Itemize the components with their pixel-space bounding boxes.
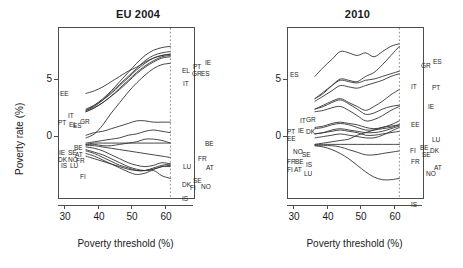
x-tick-mark-30-right bbox=[293, 205, 294, 209]
curve-se bbox=[86, 147, 170, 167]
curve-label-se: SE bbox=[302, 151, 311, 158]
curve-label-fi: FI bbox=[80, 173, 86, 180]
y-tick-label-0-right: 0 bbox=[265, 130, 281, 141]
curve-label-dk: DK bbox=[306, 128, 315, 135]
x-tick-label-30-left: 30 bbox=[54, 211, 76, 222]
plot-frame-left bbox=[58, 27, 195, 199]
curve-label-it: IT bbox=[411, 83, 417, 90]
x-tick-mark-50-left bbox=[131, 205, 132, 209]
x-tick-label-50-right: 50 bbox=[350, 211, 372, 222]
curve-label-es: ES bbox=[201, 70, 210, 77]
x-tick-label-40-left: 40 bbox=[88, 211, 110, 222]
curve-label-it: IT bbox=[183, 80, 189, 87]
curve-it bbox=[86, 63, 170, 138]
curve-label-fi: FI bbox=[410, 147, 416, 154]
x-tick-label-60-left: 60 bbox=[155, 211, 177, 222]
curve-label-no: NO bbox=[426, 170, 436, 177]
panel-title-left: EU 2004 bbox=[0, 8, 254, 20]
curve-is2 bbox=[315, 146, 399, 180]
curve-label-be: BE bbox=[420, 144, 429, 151]
curve-ie bbox=[86, 46, 170, 110]
curve-label-lu: LU bbox=[183, 163, 191, 170]
x-axis-right bbox=[287, 205, 422, 206]
curve-pt bbox=[315, 74, 399, 101]
figure-root: EU 2004 Poverty rate (%) 5 0 EEITPTELESG… bbox=[0, 0, 463, 268]
curve-fr bbox=[315, 130, 399, 135]
curve-label-lu: LU bbox=[304, 170, 312, 177]
curve-label-fr: FR bbox=[411, 158, 420, 165]
x-tick-label-40-right: 40 bbox=[317, 211, 339, 222]
curve-label-no: NO bbox=[201, 183, 211, 190]
x-tick-mark-60-left bbox=[165, 205, 166, 209]
curve-label-gr: GR bbox=[80, 118, 90, 125]
x-tick-label-50-left: 50 bbox=[121, 211, 143, 222]
curve-label-ie: IE bbox=[205, 59, 211, 66]
y-axis-label-left: Poverty rate (%) bbox=[14, 103, 25, 175]
curve-is bbox=[86, 154, 170, 179]
curve-label-gr: GR bbox=[306, 116, 316, 123]
curve-label-ie: IE bbox=[59, 149, 65, 156]
curve-label-at: AT bbox=[294, 166, 302, 173]
x-tick-mark-40-left bbox=[98, 205, 99, 209]
curve-label-dk: DK bbox=[430, 147, 439, 154]
curve-label-is: IS bbox=[61, 162, 67, 169]
curve-label-ie: IE bbox=[428, 103, 434, 110]
curve-lu bbox=[315, 146, 399, 156]
x-axis-left bbox=[58, 205, 193, 206]
curve-label-lu: LU bbox=[432, 136, 440, 143]
curve-label-fi: FI bbox=[190, 184, 196, 191]
curve-label-el: EL bbox=[182, 67, 190, 74]
curve-label-it: IT bbox=[300, 117, 306, 124]
y-tick-label-5-left: 5 bbox=[36, 73, 52, 84]
curve-label-ee: EE bbox=[287, 135, 296, 142]
curve-label-pt: PT bbox=[193, 63, 201, 70]
x-axis-label-right: Poverty threshold (%) bbox=[287, 238, 422, 249]
panel-2010: 2010 5 0 ESITGRPTEEIEDKNOSEFRBEISFIATLUE… bbox=[232, 0, 463, 268]
curve-label-is: IS bbox=[182, 195, 188, 202]
curve-gr bbox=[315, 46, 399, 98]
y-tick-label-0-left: 0 bbox=[36, 130, 52, 141]
curve-label-be: BE bbox=[295, 158, 304, 165]
curve-at bbox=[86, 139, 170, 146]
curve-label-lu: LU bbox=[70, 162, 78, 169]
curve-label-fr: FR bbox=[198, 155, 207, 162]
y-tick-label-5-right: 5 bbox=[265, 73, 281, 84]
x-tick-label-60-right: 60 bbox=[384, 211, 406, 222]
panel-title-right: 2010 bbox=[232, 8, 463, 20]
curve-label-be: BE bbox=[205, 140, 214, 147]
x-tick-mark-60-right bbox=[394, 205, 395, 209]
x-axis-label-left: Poverty threshold (%) bbox=[58, 238, 193, 249]
curve-label-pt: PT bbox=[432, 84, 440, 91]
panel-eu-2004: EU 2004 Poverty rate (%) 5 0 EEITPTELESG… bbox=[0, 0, 232, 268]
curve-label-at: AT bbox=[206, 164, 214, 171]
curve-label-fi: FI bbox=[287, 166, 293, 173]
curve-label-es: ES bbox=[433, 58, 442, 65]
x-tick-mark-40-right bbox=[327, 205, 328, 209]
curve-label-pt: PT bbox=[58, 119, 66, 126]
curve-dk bbox=[315, 100, 399, 115]
x-tick-mark-50-right bbox=[360, 205, 361, 209]
curve-it bbox=[315, 71, 399, 98]
curve-label-is: IS bbox=[306, 161, 312, 168]
curve-label-pt: PT bbox=[287, 128, 295, 135]
curve-label-it: IT bbox=[68, 112, 74, 119]
curve-label-ee: EE bbox=[60, 90, 69, 97]
curve-label-ee: EE bbox=[411, 121, 420, 128]
curve-label-gr: GR bbox=[421, 62, 431, 69]
x-tick-label-30-right: 30 bbox=[283, 211, 305, 222]
curve-be bbox=[86, 121, 170, 136]
x-tick-mark-30-left bbox=[64, 205, 65, 209]
curve-label-ie: IE bbox=[298, 127, 304, 134]
curve-label-es: ES bbox=[290, 71, 299, 78]
